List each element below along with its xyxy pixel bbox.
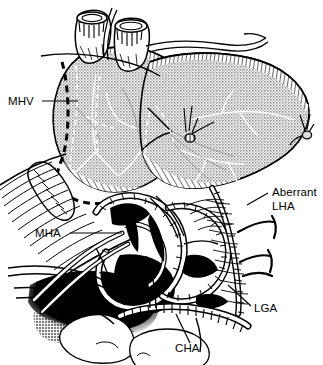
label-cha-text: CHA <box>175 342 200 354</box>
label-mhv-text: MHV <box>8 95 34 107</box>
label-lga-text: LGA <box>254 302 278 314</box>
label-aberrant-lha-line2: LHA <box>272 200 295 212</box>
label-aberrant-lha-line1: Aberrant <box>272 186 318 198</box>
label-mha: MHA <box>35 227 61 239</box>
label-cha: CHA <box>175 342 200 354</box>
label-mha-text: MHA <box>35 227 61 239</box>
anatomical-figure: MHV MHA Aberrant LHA LGA CHA <box>0 0 323 365</box>
label-mhv: MHV <box>8 95 34 107</box>
label-lga: LGA <box>254 302 278 314</box>
illustration-canvas: MHV MHA Aberrant LHA LGA CHA <box>0 0 323 365</box>
